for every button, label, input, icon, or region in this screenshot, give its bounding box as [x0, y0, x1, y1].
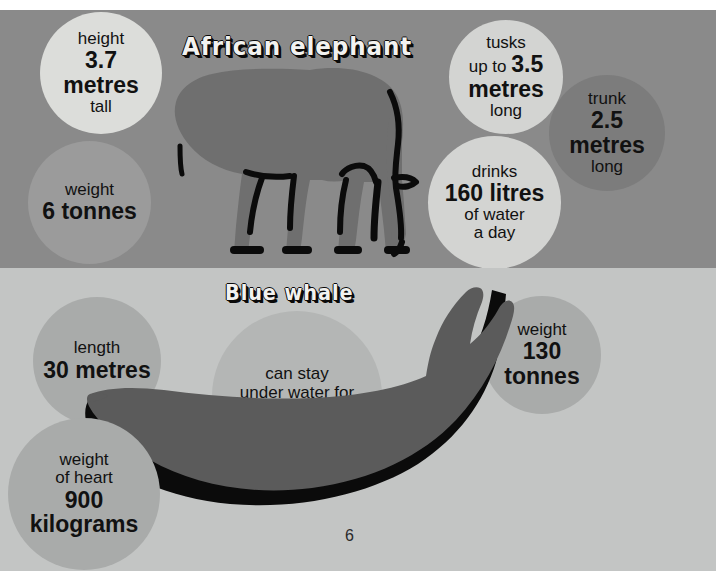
fact-line: weight	[65, 181, 114, 199]
fact-line: of heart	[55, 469, 113, 487]
fact-line: 900	[65, 488, 103, 513]
section-title-blue-whale: Blue whale	[225, 281, 353, 305]
infographic-page: African elephant height 3.7 metres tall …	[0, 0, 716, 571]
fact-line: of water	[464, 206, 524, 224]
fact-line: height	[78, 30, 124, 48]
fact-line: trunk	[588, 90, 626, 108]
elephant-silhouette-icon	[150, 62, 450, 268]
fact-line: tusks	[486, 34, 526, 52]
fact-bubble-heart-weight: weight of heart 900 kilograms	[8, 418, 160, 570]
fact-line: metres	[569, 133, 644, 158]
fact-line: tall	[90, 98, 112, 116]
fact-line: drinks	[472, 163, 517, 181]
fact-line: long	[490, 102, 522, 120]
fact-bubble-tusks: tusks up to 3.5 metres long	[449, 20, 563, 134]
fact-line: metres	[63, 73, 138, 98]
fact-line-tusks-length: up to 3.5	[469, 52, 544, 77]
fact-line: 160 litres	[445, 181, 545, 206]
fact-line: kilograms	[30, 512, 139, 537]
fact-line: 3.7	[85, 48, 117, 73]
fact-bubble-height: height 3.7 metres tall	[40, 12, 162, 134]
fact-line: a day	[474, 224, 516, 242]
fact-bubble-drinks: drinks 160 litres of water a day	[428, 136, 561, 268]
fact-bubble-weight: weight 6 tonnes	[28, 141, 151, 264]
fact-line: weight	[59, 451, 108, 469]
fact-bubble-trunk: trunk 2.5 metres long	[549, 75, 665, 191]
section-title-african-elephant: African elephant	[182, 32, 412, 61]
fact-line: 6 tonnes	[42, 199, 137, 224]
fact-line: metres	[468, 77, 543, 102]
page-number: 6	[345, 527, 354, 545]
fact-line: long	[591, 158, 623, 176]
section-african-elephant: African elephant height 3.7 metres tall …	[0, 10, 716, 268]
fact-line: 2.5	[591, 108, 623, 133]
